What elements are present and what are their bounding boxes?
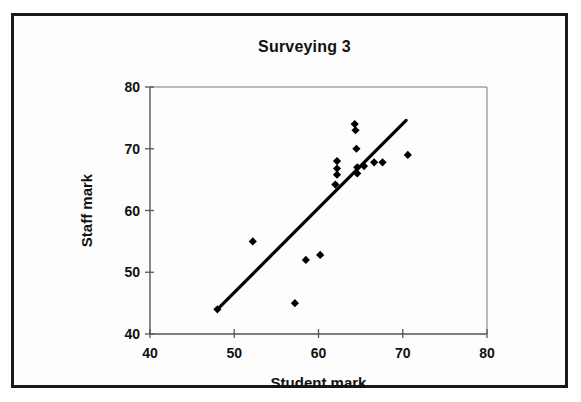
data-point-marker [316, 251, 324, 259]
data-point-marker [291, 299, 299, 307]
y-axis-title: Staff mark [78, 173, 95, 247]
data-point-marker [351, 126, 359, 134]
data-point-marker [249, 237, 257, 245]
data-point-marker [333, 171, 341, 179]
y-tick-label: 80 [124, 79, 140, 95]
y-tick-label: 60 [124, 203, 140, 219]
x-tick-label: 60 [311, 345, 327, 361]
y-tick-label: 40 [124, 326, 140, 342]
x-tick-label: 40 [142, 345, 158, 361]
y-tick-label: 70 [124, 141, 140, 157]
data-point-marker [352, 145, 360, 153]
y-tick-label: 50 [124, 264, 140, 280]
data-point-marker [333, 157, 341, 165]
data-point-marker [370, 158, 378, 166]
x-axis-title: Student mark [271, 374, 368, 391]
x-tick-label: 50 [226, 345, 242, 361]
data-point-marker [351, 120, 359, 128]
data-point-marker [404, 151, 412, 159]
data-point-marker [302, 256, 310, 264]
x-tick-label: 80 [479, 345, 495, 361]
scatter-plot: 40506070804050607080Student markStaff ma… [14, 16, 581, 402]
trendline [217, 120, 406, 309]
data-point-marker [378, 158, 386, 166]
figure-border: Surveying 3 40506070804050607080Student … [11, 13, 568, 388]
x-tick-label: 70 [395, 345, 411, 361]
